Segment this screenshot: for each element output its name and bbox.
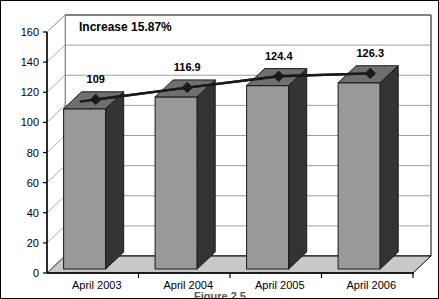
column-chart-3d: 020406080100120140160109116.9124.4126.3A… xyxy=(1,1,439,299)
increase-annotation: Increase 15.87% xyxy=(79,20,172,34)
y-axis-tick-label: 160 xyxy=(21,26,39,38)
y-axis-tick-label: 0 xyxy=(33,267,39,279)
bar-side-face xyxy=(197,80,215,269)
y-axis-tick-label: 60 xyxy=(27,177,39,189)
bar-front-face xyxy=(155,97,197,269)
y-axis-labels: 020406080100120140160 xyxy=(21,26,39,279)
bar-side-face xyxy=(289,69,307,269)
bar-4 xyxy=(338,66,398,269)
bar-front-face xyxy=(64,109,106,269)
y-axis-tick-label: 120 xyxy=(21,86,39,98)
bar-3 xyxy=(247,69,307,269)
y-axis-tick-label: 40 xyxy=(27,207,39,219)
bar-side-face xyxy=(380,66,398,269)
x-axis-labels: April 2003April 2004April 2005April 2006 xyxy=(72,273,413,291)
chart-container: 020406080100120140160109116.9124.4126.3A… xyxy=(0,0,439,299)
bar-front-face xyxy=(338,83,380,269)
y-axis-tick-label: 80 xyxy=(27,147,39,159)
x-axis-category-label: April 2003 xyxy=(72,279,122,291)
y-axis-tick-label: 100 xyxy=(21,116,39,128)
y-axis-tick-label: 20 xyxy=(27,237,39,249)
bar-1 xyxy=(64,92,124,269)
bar-value-label: 109 xyxy=(87,73,105,85)
bar-2 xyxy=(155,80,215,269)
x-axis-category-label: April 2006 xyxy=(346,279,396,291)
figure-caption: Figure 2.5 xyxy=(194,290,246,299)
bar-value-label: 126.3 xyxy=(356,47,384,59)
bar-value-label: 116.9 xyxy=(174,61,201,73)
bar-front-face xyxy=(247,86,289,269)
y-axis-tick-label: 140 xyxy=(21,56,39,68)
bar-side-face xyxy=(106,92,124,269)
x-axis-category-label: April 2005 xyxy=(255,279,305,291)
bar-value-label: 124.4 xyxy=(265,50,293,62)
